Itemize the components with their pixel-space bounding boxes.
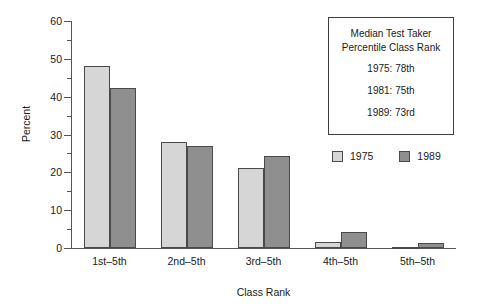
x-axis-tick-label: 1st–5th	[70, 255, 150, 267]
bar	[84, 66, 110, 248]
bar	[110, 88, 136, 248]
y-axis-minor-tick	[67, 153, 71, 154]
annotation-row-1989: 1989: 73rd	[329, 106, 453, 120]
legend: 1975 1989	[332, 150, 458, 162]
bar	[341, 232, 367, 248]
x-axis-tick-label: 3rd–5th	[224, 255, 304, 267]
legend-swatch-1975-icon	[332, 151, 343, 162]
y-axis-minor-tick	[67, 191, 71, 192]
bar	[418, 243, 444, 248]
annotation-heading-line-2: Percentile Class Rank	[329, 41, 453, 55]
bar	[161, 142, 187, 248]
bar	[238, 168, 264, 248]
annotation-row-1975: 1975: 78th	[329, 62, 453, 76]
bar	[392, 247, 418, 249]
y-axis-major-tick	[64, 59, 71, 60]
y-axis-tick-label: 20	[22, 167, 62, 178]
bar	[187, 146, 213, 248]
y-axis-major-tick	[64, 97, 71, 98]
legend-label-1975: 1975	[350, 150, 373, 162]
legend-entry-1975: 1975	[332, 150, 373, 162]
x-axis-tick-label: 2nd–5th	[147, 255, 227, 267]
y-axis-tick-label: 50	[22, 54, 62, 65]
y-axis-minor-tick	[67, 40, 71, 41]
legend-label-1989: 1989	[417, 150, 440, 162]
y-axis-tick-label: 10	[22, 205, 62, 216]
x-axis-tick-label: 4th–5th	[301, 255, 381, 267]
bar-chart: 0102030405060 Percent 1st–5th2nd–5th3rd–…	[0, 0, 482, 308]
annotation-heading-line-1: Median Test Taker	[329, 27, 453, 41]
y-axis-line	[71, 21, 72, 249]
legend-entry-1989: 1989	[399, 150, 440, 162]
y-axis-major-tick	[64, 135, 71, 136]
annotation-row-1981: 1981: 75th	[329, 84, 453, 98]
y-axis-title: Percent	[20, 84, 32, 164]
y-axis-major-tick	[64, 21, 71, 22]
legend-swatch-1989-icon	[399, 151, 410, 162]
x-axis-tick-label: 5th–5th	[378, 255, 458, 267]
y-axis-major-tick	[64, 248, 71, 249]
bar	[315, 242, 341, 248]
annotation-box: Median Test Taker Percentile Class Rank …	[328, 17, 454, 135]
y-axis-tick-label: 60	[22, 16, 62, 27]
y-axis-minor-tick	[67, 116, 71, 117]
x-axis-title: Class Rank	[71, 286, 456, 298]
y-axis-minor-tick	[67, 78, 71, 79]
y-axis-minor-tick	[67, 229, 71, 230]
y-axis-major-tick	[64, 172, 71, 173]
bar	[264, 156, 290, 248]
y-axis-major-tick	[64, 210, 71, 211]
y-axis-tick-label: 0	[22, 243, 62, 254]
